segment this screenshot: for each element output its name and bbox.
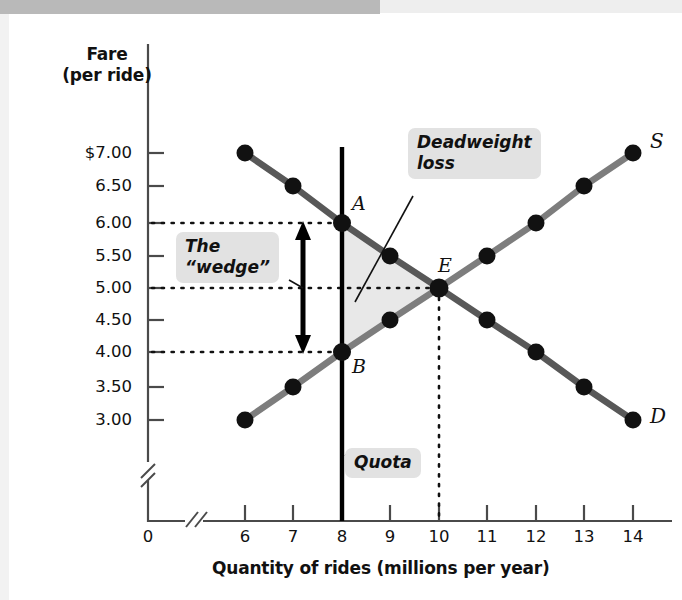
- x-tick-label-11: 11: [467, 527, 507, 546]
- y-axis-ticks: [148, 153, 164, 420]
- x-axis-break-icon: [186, 512, 207, 527]
- x-tick-label-7: 7: [273, 527, 313, 546]
- equilibrium-point-marker: [430, 279, 449, 298]
- point-label-e: E: [438, 254, 452, 276]
- point-label-b: B: [352, 355, 366, 377]
- origin-label: 0: [128, 527, 168, 546]
- x-tick-label-10: 10: [419, 527, 459, 546]
- x-tick-label-14: 14: [613, 527, 653, 546]
- y-tick-label-3: 3.00: [46, 410, 132, 429]
- x-tick-label-8: 8: [322, 527, 362, 546]
- y-tick-label-3-5: 3.50: [46, 377, 132, 396]
- y-tick-label-4: 4.00: [46, 342, 132, 361]
- x-tick-label-9: 9: [370, 527, 410, 546]
- supply-curve-label: S: [650, 129, 664, 153]
- y-tick-label-6-5: 6.50: [46, 176, 132, 195]
- figure-page: Fare (per ride) Quantity of rides (milli…: [0, 0, 682, 600]
- chart-canvas: [0, 0, 682, 600]
- callout-wedge: The “wedge”: [176, 232, 279, 283]
- callout-quota: Quota: [345, 448, 421, 478]
- y-tick-label-4-5: 4.50: [46, 310, 132, 329]
- x-tick-label-6: 6: [225, 527, 265, 546]
- demand-curve-label: D: [650, 404, 666, 428]
- y-tick-label-5: 5.00: [46, 278, 132, 297]
- y-tick-label-7: $7.00: [46, 143, 132, 162]
- y-axis-title: Fare (per ride): [52, 44, 162, 86]
- y-tick-label-6: 6.00: [46, 213, 132, 232]
- point-label-a: A: [352, 192, 366, 214]
- y-tick-label-5-5: 5.50: [46, 246, 132, 265]
- x-axis-title: Quantity of rides (millions per year): [212, 558, 550, 578]
- x-tick-label-12: 12: [516, 527, 556, 546]
- x-tick-label-13: 13: [564, 527, 604, 546]
- callout-deadweight-loss: Deadweight loss: [408, 128, 541, 179]
